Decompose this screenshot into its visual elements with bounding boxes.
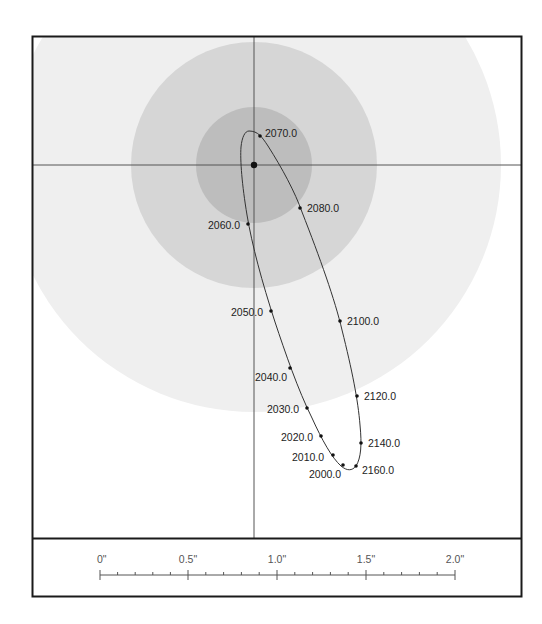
epoch-marker: 2070.0	[258, 127, 297, 139]
scale-label: 0.5"	[179, 553, 198, 565]
epoch-label: 2160.0	[362, 464, 394, 476]
epoch-label: 2000.0	[309, 468, 341, 480]
plot-area: 2000.02010.02020.02030.02040.02050.02060…	[7, 0, 521, 538]
epoch-dot	[359, 441, 363, 445]
scale-bar: 0"0.5"1.0"1.5"2.0"	[97, 553, 464, 580]
scale-label: 1.0"	[268, 553, 287, 565]
epoch-dot	[305, 406, 309, 410]
epoch-label: 2060.0	[208, 219, 240, 231]
epoch-dot	[258, 134, 262, 138]
scale-label: 1.5"	[357, 553, 376, 565]
primary-star	[251, 162, 257, 168]
epoch-dot	[338, 319, 342, 323]
epoch-dot	[288, 366, 292, 370]
epoch-label: 2030.0	[267, 403, 299, 415]
epoch-dot	[354, 464, 358, 468]
epoch-dot	[341, 463, 345, 467]
epoch-label: 2120.0	[364, 390, 396, 402]
epoch-label: 2080.0	[307, 202, 339, 214]
epoch-dot	[355, 394, 359, 398]
scale-label: 2.0"	[446, 553, 465, 565]
epoch-label: 2070.0	[265, 127, 297, 139]
epoch-label: 2100.0	[347, 315, 379, 327]
epoch-dot	[269, 309, 273, 313]
epoch-label: 2050.0	[231, 306, 263, 318]
epoch-dot	[331, 453, 335, 457]
epoch-label: 2140.0	[368, 437, 400, 449]
epoch-label: 2020.0	[281, 431, 313, 443]
epoch-dot	[298, 206, 302, 210]
epoch-dot	[246, 222, 250, 226]
epoch-label: 2010.0	[292, 451, 324, 463]
epoch-dot	[319, 434, 323, 438]
orbit-diagram: 2000.02010.02020.02030.02040.02050.02060…	[0, 0, 542, 624]
epoch-label: 2040.0	[255, 371, 287, 383]
scale-label: 0"	[97, 553, 107, 565]
